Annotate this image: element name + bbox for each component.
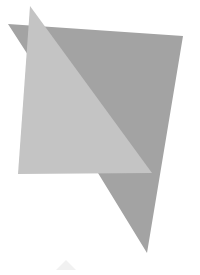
abstract-shapes-canvas [0, 0, 200, 275]
faint-chevron-mark [56, 260, 76, 270]
